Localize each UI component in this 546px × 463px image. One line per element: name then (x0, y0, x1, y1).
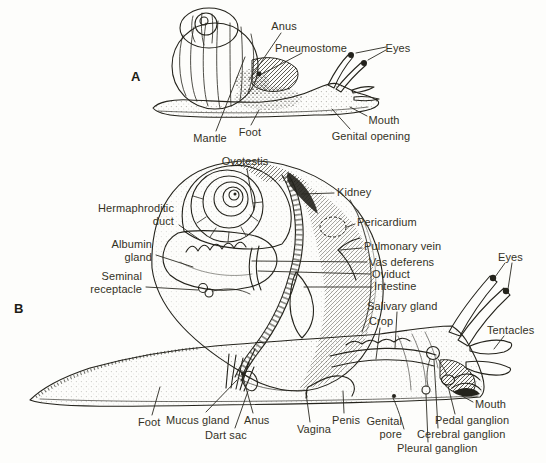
label-albumin-gland: Albumin gland (104, 238, 152, 264)
label-pulmonary-vein: Pulmonary vein (364, 240, 441, 253)
label-tentacles: Tentacles (487, 324, 534, 337)
panel-letter-a: A (131, 69, 140, 84)
eye-left-b (490, 275, 496, 281)
label-crop: Crop (369, 315, 393, 328)
label-pneumostome: Pneumostome (275, 42, 347, 55)
label-mouth-a: Mouth (368, 114, 399, 127)
label-cerebral-ganglion: Cerebral ganglion (417, 428, 506, 441)
panel-letter-b: B (14, 301, 23, 316)
label-anus-b: Anus (244, 414, 269, 427)
genital-pore-opening (392, 394, 396, 398)
illustration-artwork (0, 0, 546, 463)
label-foot-a: Foot (239, 126, 261, 139)
label-pericardium: Pericardium (357, 216, 417, 229)
label-kidney: Kidney (337, 186, 371, 199)
label-salivary-gland: Salivary gland (367, 300, 438, 313)
label-mouth-b: Mouth (475, 398, 506, 411)
anus-opening (241, 372, 245, 376)
label-mucus-gland: Mucus gland (166, 414, 229, 427)
pneumostome-pore (257, 72, 262, 77)
label-pedal-ganglion: Pedal ganglion (435, 414, 509, 427)
label-anus-a: Anus (271, 20, 296, 33)
label-intestine: Intestine (374, 280, 416, 293)
label-eyes-b: Eyes (498, 251, 523, 264)
eye-right-a (361, 60, 367, 66)
tentacle-small-upper (470, 340, 512, 354)
label-hermaphroditic-duct: Hermaphroditic duct (96, 202, 174, 228)
label-ovotestis: Ovotestis (222, 155, 269, 168)
snail-exterior-illustration (153, 8, 379, 117)
label-seminal-receptacle: Seminal receptacle (86, 270, 142, 296)
snail-anatomy-figure: A B Anus Pneumostome Eyes Mouth Genital … (0, 0, 546, 463)
label-dart-sac: Dart sac (205, 429, 247, 442)
label-genital-pore: Genital pore (360, 415, 402, 441)
label-vagina: Vagina (297, 423, 331, 436)
label-genital-opening: Genital opening (332, 130, 411, 143)
eye-left-a (348, 52, 354, 58)
label-mantle: Mantle (193, 132, 227, 145)
label-pleural-ganglion: Pleural ganglion (397, 442, 478, 455)
label-eyes-a: Eyes (386, 42, 411, 55)
label-foot-b: Foot (138, 416, 160, 429)
label-penis: Penis (332, 414, 360, 427)
